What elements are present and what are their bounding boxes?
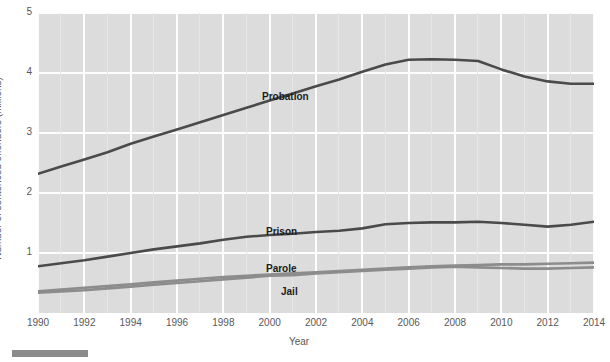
x-tick-label-1990: 1990 xyxy=(27,317,49,328)
y-axis-title: Number of sentenced offenders (millions) xyxy=(0,77,3,260)
y-tick-label-3: 3 xyxy=(20,126,32,137)
series-lines xyxy=(38,13,594,313)
y-tick-label-5: 5 xyxy=(20,6,32,17)
chart-figure: Number of sentenced offenders (millions)… xyxy=(0,0,610,362)
x-tick-label-1994: 1994 xyxy=(120,317,142,328)
x-tick-label-2012: 2012 xyxy=(537,317,559,328)
x-axis-title: Year xyxy=(289,336,309,347)
caption-bar xyxy=(12,350,88,357)
x-tick-label-2004: 2004 xyxy=(351,317,373,328)
series-label-probation: Probation xyxy=(262,91,309,102)
y-tick-label-4: 4 xyxy=(20,66,32,77)
y-tick-label-1: 1 xyxy=(20,246,32,257)
x-tick-label-2010: 2010 xyxy=(490,317,512,328)
series-line-probation xyxy=(38,59,594,174)
x-tick-label-1992: 1992 xyxy=(73,317,95,328)
x-tick-label-1996: 1996 xyxy=(166,317,188,328)
x-tick-label-2000: 2000 xyxy=(259,317,281,328)
x-tick-label-1998: 1998 xyxy=(212,317,234,328)
series-line-jail xyxy=(38,267,594,293)
y-tick-label-2: 2 xyxy=(20,186,32,197)
x-tick-label-2008: 2008 xyxy=(444,317,466,328)
x-tick-label-2014: 2014 xyxy=(583,317,605,328)
series-line-prison xyxy=(38,222,594,266)
series-label-jail: Jail xyxy=(281,286,298,297)
series-label-parole: Parole xyxy=(266,263,297,274)
x-tick-label-2002: 2002 xyxy=(305,317,327,328)
plot-area xyxy=(38,13,594,313)
x-tick-label-2006: 2006 xyxy=(398,317,420,328)
series-label-prison: Prison xyxy=(266,226,297,237)
